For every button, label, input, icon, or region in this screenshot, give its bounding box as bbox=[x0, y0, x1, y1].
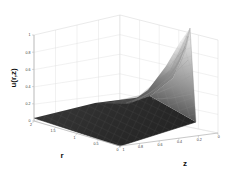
r-tick-label-1: 1 bbox=[74, 136, 76, 140]
z-tick-label-1: 1 bbox=[123, 148, 125, 152]
u-tick-label-0_6: 0.6 bbox=[26, 68, 31, 72]
u-tick-label-1: 1 bbox=[29, 33, 31, 37]
z-tick-label-0_4: 0.4 bbox=[177, 140, 182, 144]
u-axis-ticks: 1 0.8 0.6 0.4 0.2 0 bbox=[26, 33, 35, 123]
surface-plot: 1 0.8 0.6 0.4 0.2 0 2 1.5 1 0.5 0 bbox=[0, 0, 243, 177]
z-axis-title: z bbox=[183, 159, 187, 168]
u-tick-label-0_2: 0.2 bbox=[26, 102, 31, 106]
r-tick-label-0_5: 0.5 bbox=[94, 142, 99, 146]
z-tick-label-0_2: 0.2 bbox=[197, 138, 202, 142]
u-axis-title: u(r,z) bbox=[9, 68, 18, 87]
r-tick-label-0: 0 bbox=[117, 148, 119, 152]
z-tick-label-0_6: 0.6 bbox=[158, 143, 163, 147]
u-tick-label-0_4: 0.4 bbox=[26, 85, 31, 89]
r-axis-title: r bbox=[60, 151, 63, 160]
r-tick-label-2: 2 bbox=[30, 123, 32, 127]
z-tick-label-0_8: 0.8 bbox=[138, 145, 143, 149]
z-tick-label-0: 0 bbox=[218, 135, 220, 139]
u-tick-label-0_8: 0.8 bbox=[26, 51, 31, 55]
figure-canvas: 1 0.8 0.6 0.4 0.2 0 2 1.5 1 0.5 0 bbox=[0, 0, 243, 177]
r-tick-label-1_5: 1.5 bbox=[51, 129, 56, 133]
